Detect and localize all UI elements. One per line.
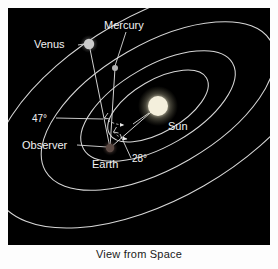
angle28-leader-line [120, 134, 131, 158]
venus-angle-arc-left [105, 113, 110, 119]
label-angle-venus: 47° [32, 113, 47, 124]
angle47-leader-line [56, 118, 103, 119]
mercury-angle-arc-left [114, 127, 119, 133]
orbit-diagram-svg: Venus Mercury Sun Earth Observer 47° 28° [8, 8, 270, 245]
earth-body [102, 140, 118, 156]
astronomy-diagram-figure: Venus Mercury Sun Earth Observer 47° 28°… [0, 0, 278, 269]
venus-disc [84, 39, 94, 49]
label-angle-mercury: 28° [132, 153, 147, 164]
mercury-leader-line [115, 32, 126, 66]
mercury-body [112, 65, 118, 71]
label-mercury: Mercury [104, 19, 144, 31]
label-earth: Earth [92, 158, 118, 170]
earth-to-mercury-line [110, 68, 115, 148]
mercury-disc [112, 65, 118, 71]
label-observer: Observer [22, 139, 68, 151]
label-sun: Sun [168, 120, 188, 132]
figure-caption: View from Space [0, 248, 278, 260]
sky-panel: Venus Mercury Sun Earth Observer 47° 28° [8, 8, 270, 245]
sun-disc [148, 96, 168, 116]
venus-body [80, 35, 98, 53]
leader-line-group [56, 32, 149, 158]
label-venus: Venus [34, 38, 65, 50]
earth-disc [106, 144, 114, 152]
earth-to-venus-line [89, 44, 110, 148]
